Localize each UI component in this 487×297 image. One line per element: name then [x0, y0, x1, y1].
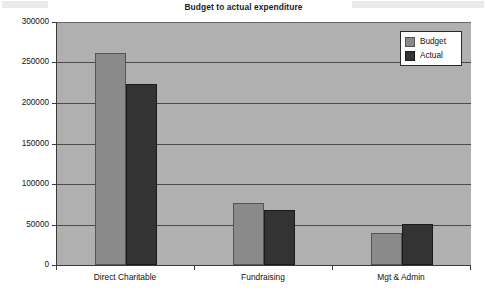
bar-chart: Budget to actual expenditure 30000025000… — [0, 0, 487, 297]
x-category-label: Direct Charitable — [56, 272, 194, 282]
bar-actual-direct-charitable — [126, 84, 157, 265]
chart-legend: BudgetActual — [400, 31, 462, 66]
legend-label: Actual — [420, 51, 443, 60]
chart-title: Budget to actual expenditure — [0, 2, 487, 12]
x-tick-mark — [470, 266, 471, 270]
y-tick-label: 50000 — [26, 220, 49, 229]
bar-actual-mgt-admin — [402, 224, 433, 265]
x-category-label: Fundraising — [194, 272, 332, 282]
y-tick-label: 250000 — [22, 57, 49, 66]
legend-swatch-icon — [405, 51, 415, 61]
bar-budget-mgt-admin — [371, 233, 402, 265]
y-tick-label: 150000 — [22, 139, 49, 148]
y-tick-label: 300000 — [22, 17, 49, 26]
legend-label: Budget — [420, 37, 446, 46]
gridline — [57, 22, 471, 23]
bar-budget-direct-charitable — [95, 53, 126, 265]
y-tick-label: 100000 — [22, 179, 49, 188]
x-tick-mark — [332, 266, 333, 270]
y-tick-label: 0 — [44, 260, 49, 269]
y-tick-label: 200000 — [22, 98, 49, 107]
x-tick-mark — [194, 266, 195, 270]
bar-budget-fundraising — [233, 203, 264, 265]
x-tick-mark — [56, 266, 57, 270]
bar-actual-fundraising — [264, 210, 295, 265]
x-category-label: Mgt & Admin — [332, 272, 470, 282]
legend-swatch-icon — [405, 37, 415, 47]
